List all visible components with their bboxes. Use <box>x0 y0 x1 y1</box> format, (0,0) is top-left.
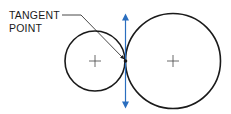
tangent-point-label-line1: TANGENT <box>9 9 60 21</box>
small-circle-center-mark-icon <box>89 55 101 67</box>
large-circle-center-mark-icon <box>167 55 179 67</box>
large-circle <box>126 14 221 109</box>
small-circle <box>65 31 125 91</box>
tangent-point-dot-icon <box>124 59 128 63</box>
leader-line-arrow-icon <box>62 15 124 59</box>
tangent-point-label-line2: POINT <box>9 22 42 34</box>
